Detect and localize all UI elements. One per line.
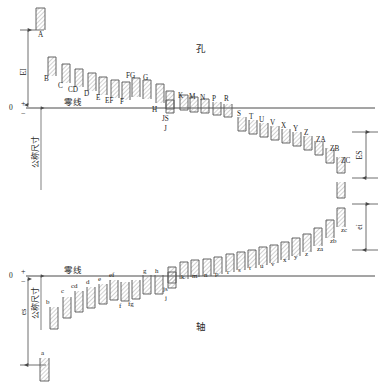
plus-sign-lower: + <box>21 267 26 276</box>
zone-label-z: z <box>305 250 308 258</box>
zone-label-e: e <box>98 275 101 283</box>
tolerance-zone-f <box>121 282 129 301</box>
zone-label-CD: CD <box>68 86 78 94</box>
zone-label-u: u <box>260 262 264 270</box>
tolerance-zone-ef <box>110 280 118 300</box>
zone-label-JS: JS <box>162 115 169 123</box>
tolerance-zone-T <box>249 120 257 134</box>
tolerance-zone-S <box>238 117 246 131</box>
zone-hatch-fill <box>121 282 129 301</box>
zone-label-ZC: ZC <box>341 157 350 165</box>
zone-label-f: f <box>119 302 122 310</box>
tolerance-zone-za <box>314 228 322 246</box>
zone-label-D: D <box>84 90 89 98</box>
zone-hatch-fill <box>156 84 164 103</box>
zone-hatch-fill <box>249 120 257 134</box>
tolerance-zone-fg <box>132 280 140 299</box>
tolerance-zone-G <box>143 80 151 99</box>
tolerance-zone-P <box>213 102 221 115</box>
zone-label-n: n <box>204 271 208 279</box>
zone-label-a: a <box>41 349 45 357</box>
zone-hatch-fill <box>282 129 290 143</box>
zone-label-j: j <box>164 294 167 302</box>
es-right-text: ES <box>355 151 364 160</box>
zone-label-g: g <box>143 267 147 275</box>
zone-label-ef: ef <box>109 271 115 279</box>
zone-label-H: H <box>152 106 157 114</box>
zone-label-M: M <box>189 93 196 101</box>
zone-hatch-fill <box>36 8 45 30</box>
hole-text: 孔 <box>196 43 206 54</box>
tolerance-zone-zc <box>337 208 345 227</box>
zone-label-m: m <box>192 272 198 280</box>
zone-label-R: R <box>224 95 229 103</box>
zone-label-ZB: ZB <box>330 145 339 153</box>
minus-sign-upper: − <box>21 109 26 118</box>
tolerance-zone-C <box>62 64 70 83</box>
zone-label-EF: EF <box>105 97 113 105</box>
zone-hatch-fill <box>224 104 232 117</box>
zone-hatch-fill <box>75 291 83 312</box>
zone-label-zb: zb <box>330 237 337 245</box>
hole-zones-group: ABCCDDEEFFFGGHJSJKMNPRSTUVXYZZAZBZC <box>36 8 350 198</box>
zone-hatch-fill <box>168 272 176 288</box>
zone-label-za: za <box>317 245 324 253</box>
diagram-canvas: ABCCDDEEFFFGGHJSJKMNPRSTUVXYZZAZBZC zczb… <box>0 0 383 389</box>
zone-label-c: c <box>61 287 64 295</box>
axes-group <box>20 30 378 365</box>
tolerance-zone-zb <box>326 220 334 238</box>
zone-label-E: E <box>96 94 101 102</box>
zone-hatch-fill <box>88 73 96 91</box>
zone-label-A: A <box>38 31 44 39</box>
zone-label-N: N <box>200 94 206 102</box>
zone-label-Z: Z <box>304 129 308 137</box>
minus-sign-lower: − <box>21 277 26 286</box>
zone-label-s: s <box>238 266 241 274</box>
zone-label-FG: FG <box>126 72 135 80</box>
zone-label-b: b <box>46 298 50 306</box>
zero-line-upper-text: 零线 <box>64 97 82 107</box>
tolerance-zone-b <box>50 307 58 329</box>
zone-label-U: U <box>259 116 265 124</box>
plus-sign-upper: + <box>21 99 26 108</box>
shaft-text: 轴 <box>196 321 206 332</box>
zone-hatch-fill <box>40 358 49 381</box>
zone-hatch-fill <box>111 80 119 98</box>
zone-hatch-fill <box>63 297 71 318</box>
tolerance-zone-j <box>168 272 176 288</box>
zone-hatch-fill <box>304 136 312 150</box>
zone-label-ZA: ZA <box>316 136 326 144</box>
zone-hatch-fill <box>337 182 345 198</box>
zone-label-k: k <box>181 273 185 281</box>
tolerance-zone-H <box>156 84 164 103</box>
tolerance-zone-diagram: ABCCDDEEFFFGGHJSJKMNPRSTUVXYZZAZBZC zczb… <box>0 0 383 389</box>
zone-label-p: p <box>215 270 219 278</box>
zone-label-x: x <box>283 256 287 264</box>
zone-hatch-fill <box>132 78 140 97</box>
tolerance-zone-E <box>99 77 107 95</box>
tolerance-zone-R <box>224 104 232 117</box>
zone-label-Y: Y <box>293 125 299 133</box>
tolerance-zone-J <box>166 100 174 113</box>
zone-label-y: y <box>294 253 298 261</box>
zone-hatch-fill <box>50 307 58 329</box>
es-left-text: es <box>19 309 28 315</box>
zone-hatch-fill <box>213 102 221 115</box>
zone-hatch-fill <box>132 280 140 299</box>
tolerance-zone-cd <box>75 291 83 312</box>
zone-hatch-fill <box>271 126 279 140</box>
zone-label-V: V <box>270 119 276 127</box>
zone-hatch-fill <box>337 208 345 227</box>
ei-right-text: ei <box>355 224 364 229</box>
zone-label-cd: cd <box>71 282 78 290</box>
zone-hatch-fill <box>99 284 107 304</box>
ei-left-text: EI <box>19 68 28 76</box>
tolerance-zone-d <box>87 287 95 308</box>
zone-label-T: T <box>249 113 254 121</box>
zone-hatch-fill <box>314 228 322 246</box>
zero-marker-upper: 0 <box>9 103 13 112</box>
tolerance-zone-D <box>88 73 96 91</box>
zone-hatch-fill <box>155 275 163 294</box>
tolerance-zone-A <box>36 8 45 30</box>
zone-hatch-fill <box>110 280 118 300</box>
